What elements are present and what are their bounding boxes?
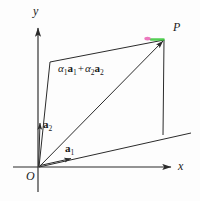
point-p-label: P	[173, 21, 180, 33]
combo-a2-subscript: 2	[100, 68, 104, 77]
linear-combination-label: α1a1+α2a2	[58, 63, 104, 77]
parallelogram-side-right	[163, 40, 164, 135]
plus-operator: +	[77, 62, 85, 74]
parallelogram-side-top	[50, 40, 164, 62]
origin-label: O	[26, 170, 35, 182]
vector-a2-subscript: 2	[49, 124, 53, 133]
vector-a1-subscript: 1	[71, 148, 75, 157]
x-axis-label: x	[178, 160, 183, 172]
parallelogram-side-bottom	[39, 133, 191, 167]
vector-a1-label: a1	[65, 143, 74, 157]
resultant-vector-OP	[39, 41, 163, 167]
magenta-marker-dot	[144, 37, 150, 41]
vector-diagram-figure: y x O P a1 a2 α1a1+α2a2	[0, 0, 200, 201]
vector-a1-arrow	[40, 159, 71, 166]
parallelogram-side-left	[39, 62, 50, 167]
y-axis-label: y	[33, 5, 38, 17]
vector-a2-label: a2	[43, 119, 52, 133]
